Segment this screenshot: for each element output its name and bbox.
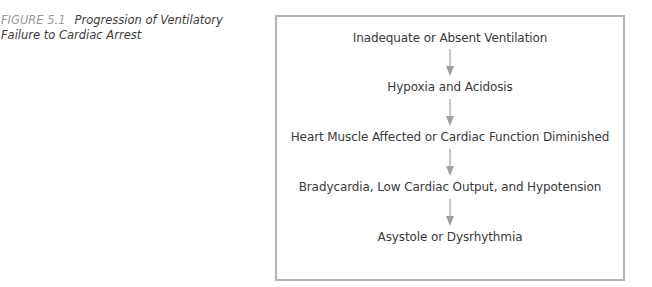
figure-caption: FIGURE 5.1Progression of Ventilatory Fai… [1, 13, 261, 43]
flow-step-4: Bradycardia, Low Cardiac Output, and Hyp… [277, 180, 623, 194]
flow-step-5: Asystole or Dysrhythmia [277, 230, 623, 244]
flow-step-1: Inadequate or Absent Ventilation [277, 31, 623, 45]
arrow-down-icon [444, 199, 456, 227]
arrow-down-icon [444, 49, 456, 77]
flowchart-box: Inadequate or Absent Ventilation Hypoxia… [275, 15, 625, 281]
arrow-down-icon [444, 149, 456, 177]
flow-step-2: Hypoxia and Acidosis [277, 80, 623, 94]
flow-step-3: Heart Muscle Affected or Cardiac Functio… [277, 130, 623, 144]
figure-label: FIGURE 5.1 [1, 13, 66, 27]
arrow-down-icon [444, 99, 456, 127]
